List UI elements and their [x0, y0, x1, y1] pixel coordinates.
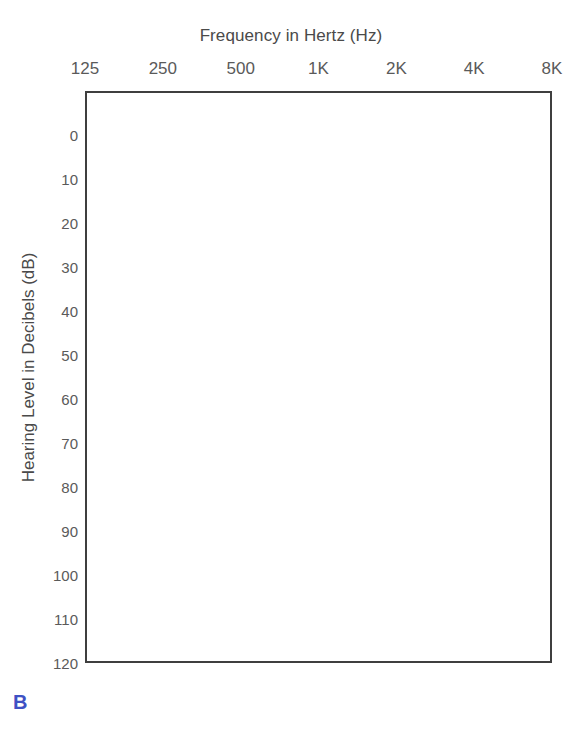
- y-axis-title: Hearing Level in Decibels (dB): [14, 0, 44, 735]
- panel-label: B: [13, 691, 28, 714]
- plot-frame: [85, 91, 552, 663]
- x-tick-4K: 4K: [464, 59, 485, 79]
- x-tick-2K: 2K: [386, 59, 407, 79]
- y-tick-100: 100: [53, 567, 78, 584]
- y-tick-120: 120: [53, 655, 78, 672]
- chart-title: Frequency in Hertz (Hz): [0, 26, 582, 46]
- y-tick-60: 60: [61, 391, 78, 408]
- audiogram-plot-area: [85, 91, 552, 663]
- y-tick-0: 0: [70, 127, 78, 144]
- y-tick-70: 70: [61, 435, 78, 452]
- y-tick-90: 90: [61, 523, 78, 540]
- y-tick-50: 50: [61, 347, 78, 364]
- x-tick-500: 500: [226, 59, 254, 79]
- x-tick-1K: 1K: [308, 59, 329, 79]
- y-tick-80: 80: [61, 479, 78, 496]
- y-tick-10: 10: [61, 171, 78, 188]
- x-tick-8K: 8K: [542, 59, 563, 79]
- y-tick-20: 20: [61, 215, 78, 232]
- y-tick-110: 110: [54, 611, 78, 628]
- y-tick-40: 40: [61, 303, 78, 320]
- y-tick-30: 30: [61, 259, 78, 276]
- x-tick-250: 250: [149, 59, 177, 79]
